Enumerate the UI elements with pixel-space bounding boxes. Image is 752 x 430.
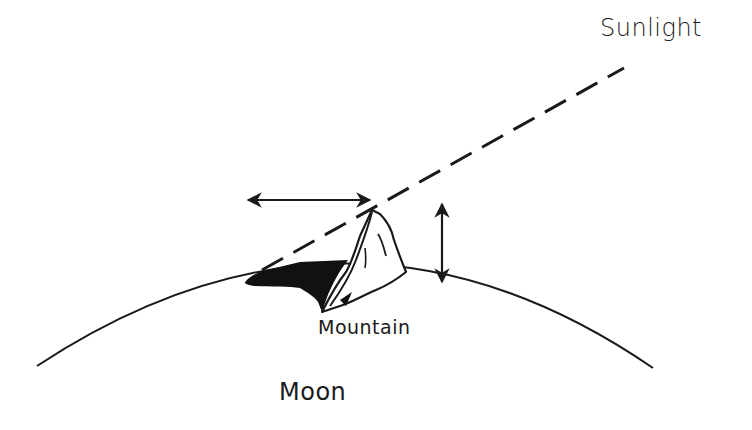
diagram-svg: [0, 0, 752, 430]
diagram-canvas: Sunlight Mountain Moon: [0, 0, 752, 430]
mountain-label: Mountain: [318, 316, 411, 338]
mountain-detail: [365, 248, 366, 268]
sunlight-label: Sunlight: [600, 14, 702, 42]
moon-label: Moon: [279, 378, 346, 406]
